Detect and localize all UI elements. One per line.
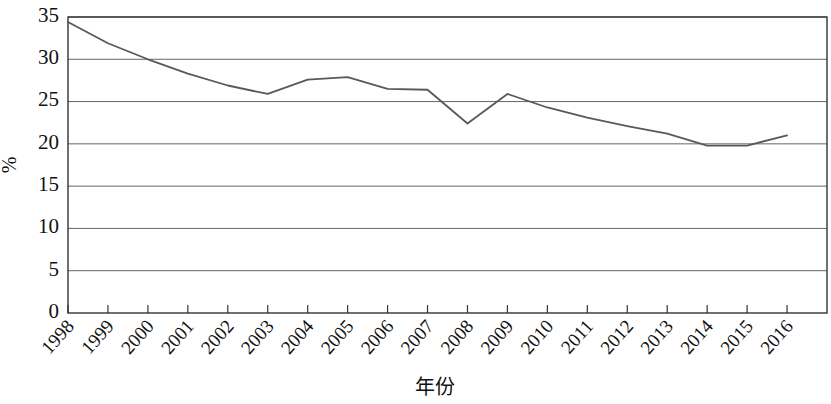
x-axis-tick-label-1998: 1998 bbox=[37, 316, 78, 358]
x-axis-tick-label-2006: 2006 bbox=[357, 316, 398, 358]
x-axis-tick-label-2001: 2001 bbox=[157, 316, 198, 358]
x-axis-title: 年份 bbox=[415, 376, 455, 398]
x-axis-tick-label-2000: 2000 bbox=[117, 316, 158, 358]
x-axis-tick-label-2014: 2014 bbox=[676, 315, 717, 358]
y-axis-tick-label-20: 20 bbox=[38, 130, 59, 154]
y-axis-tick-label-15: 15 bbox=[38, 172, 59, 196]
x-axis-tick-label-2015: 2015 bbox=[716, 316, 757, 358]
x-axis-tick-label-2013: 2013 bbox=[636, 316, 677, 358]
y-axis-tick-label-35: 35 bbox=[38, 3, 59, 27]
x-axis-tick-label-2005: 2005 bbox=[317, 316, 358, 358]
y-axis-tick-label-5: 5 bbox=[49, 257, 60, 281]
x-axis-tick-label-2003: 2003 bbox=[237, 316, 278, 358]
plot-background bbox=[68, 17, 827, 313]
x-axis-tick-label-2010: 2010 bbox=[516, 316, 557, 358]
y-axis-tick-label-25: 25 bbox=[38, 87, 59, 111]
line-chart: 05101520253035%1998199920002001200220032… bbox=[0, 0, 831, 404]
x-axis-tick-label-2004: 2004 bbox=[277, 315, 318, 358]
y-axis-title: % bbox=[0, 157, 20, 174]
x-axis-tick-label-2011: 2011 bbox=[557, 316, 598, 358]
x-axis-tick-label-2012: 2012 bbox=[596, 316, 637, 358]
x-axis-tick-label-2008: 2008 bbox=[436, 316, 477, 358]
chart-canvas: 05101520253035%1998199920002001200220032… bbox=[0, 0, 831, 404]
x-axis-tick-label-2009: 2009 bbox=[476, 316, 517, 358]
y-axis-tick-label-10: 10 bbox=[38, 214, 59, 238]
x-axis-tick-label-2007: 2007 bbox=[396, 316, 437, 358]
x-axis-tick-label-2016: 2016 bbox=[756, 316, 797, 358]
x-axis-tick-label-1999: 1999 bbox=[77, 316, 118, 358]
y-axis-tick-label-30: 30 bbox=[38, 45, 59, 69]
y-axis-tick-label-0: 0 bbox=[49, 299, 60, 323]
x-axis-tick-label-2002: 2002 bbox=[197, 316, 238, 358]
